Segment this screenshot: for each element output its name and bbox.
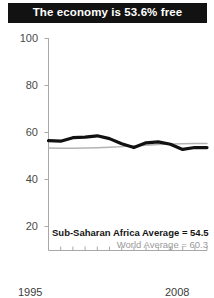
x-axis-tick-label-end: 2008 <box>165 287 189 298</box>
y-axis-tick-label-60: 60 <box>8 127 38 138</box>
legend-item-world-average: World Average = 60.3 <box>52 239 208 251</box>
page-title: The economy is 53.6% free <box>33 7 183 19</box>
legend-item-sub-saharan-africa-average: Sub-Saharan Africa Average = 54.5 <box>52 227 208 239</box>
y-axis-ticks <box>45 39 49 227</box>
chart-title-banner: The economy is 53.6% free <box>8 3 207 23</box>
plot-area: 100 80 60 40 20 1995 2008 Sub-Saharan Af… <box>0 24 214 290</box>
y-axis-tick-label-40: 40 <box>8 174 38 185</box>
chart-legend: Sub-Saharan Africa Average = 54.5 World … <box>52 227 208 251</box>
series-line-sub-saharan-africa-average <box>49 136 208 150</box>
y-axis-tick-label-100: 100 <box>8 33 38 44</box>
y-axis-tick-label-80: 80 <box>8 80 38 91</box>
y-axis-tick-label-20: 20 <box>8 221 38 232</box>
x-axis-tick-label-start: 1995 <box>18 287 42 298</box>
